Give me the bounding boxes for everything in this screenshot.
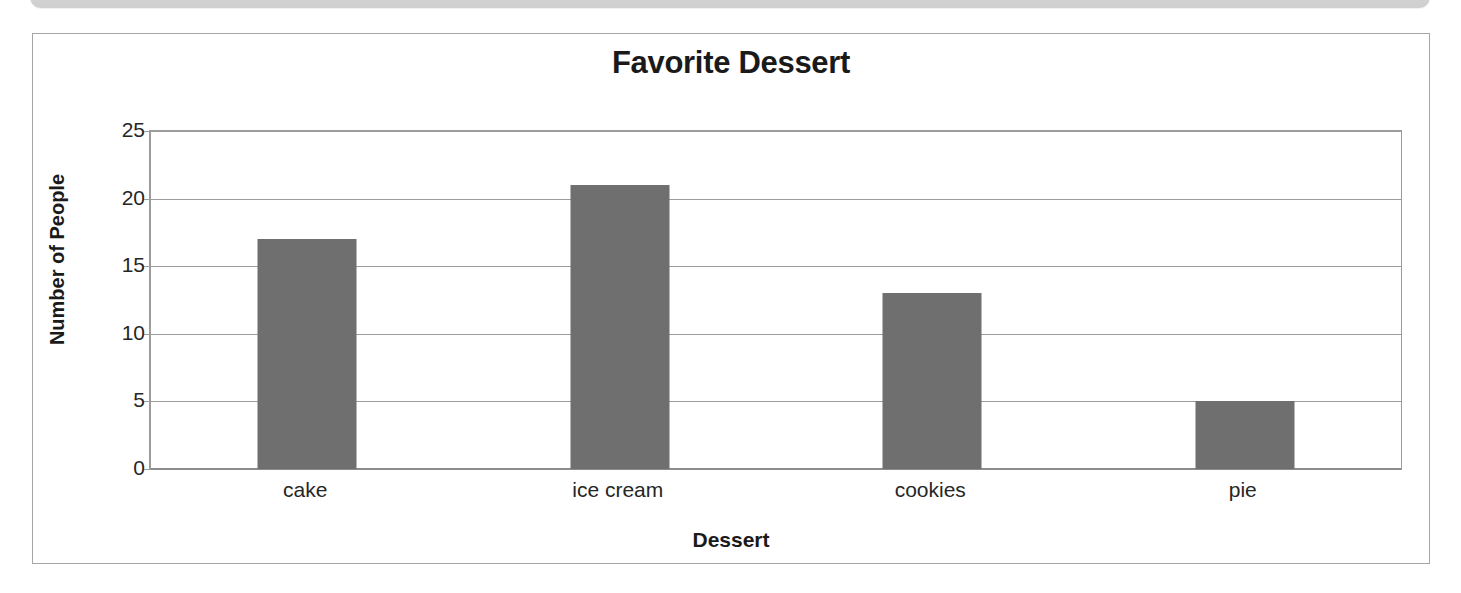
bar-slot (1089, 131, 1402, 469)
y-axis-tickmark (144, 334, 151, 335)
y-axis-tick-label: 10 (99, 321, 145, 345)
bar[interactable] (258, 239, 357, 469)
plot-area (149, 130, 1402, 470)
bar-slot (151, 131, 464, 469)
chart-container: Favorite Dessert Number of People 051015… (32, 33, 1430, 564)
chart-title: Favorite Dessert (33, 45, 1429, 81)
bar[interactable] (883, 293, 982, 469)
y-axis-tickmark (144, 199, 151, 200)
x-axis-tick-label: cookies (774, 478, 1087, 502)
x-axis-tick-labels: cakeice creamcookiespie (149, 478, 1399, 508)
y-axis-tick-label: 15 (99, 253, 145, 277)
y-axis-tick-labels: 0510152025 (93, 34, 145, 565)
x-axis-tick-label: ice cream (462, 478, 775, 502)
x-axis-title: Dessert (33, 528, 1429, 552)
x-axis-tick-label: cake (149, 478, 462, 502)
bar-slot (776, 131, 1089, 469)
y-axis-tickmark (144, 469, 151, 470)
bar[interactable] (570, 185, 669, 469)
y-axis-tick-label: 0 (99, 456, 145, 480)
y-axis-tick-label: 25 (99, 118, 145, 142)
y-axis-title: Number of People (46, 160, 69, 360)
bar-slot (464, 131, 777, 469)
y-axis-tick-label: 5 (99, 388, 145, 412)
clipped-header-box: y p (30, 0, 1430, 8)
y-axis-tickmark (144, 131, 151, 132)
y-axis-tick-label: 20 (99, 186, 145, 210)
bar-series (151, 131, 1401, 469)
bar[interactable] (1195, 401, 1294, 469)
y-axis-tickmark (144, 266, 151, 267)
y-axis-tickmark (144, 401, 151, 402)
x-axis-tick-label: pie (1087, 478, 1400, 502)
